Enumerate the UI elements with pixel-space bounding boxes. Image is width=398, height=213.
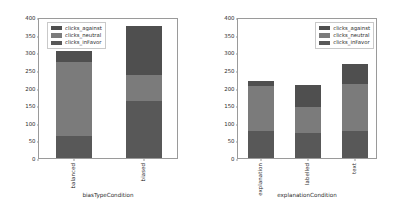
x-tick-mark bbox=[74, 158, 75, 161]
y-tick-mark bbox=[37, 54, 40, 55]
legend-entry: clicks_against bbox=[319, 26, 370, 31]
stacked-bar bbox=[56, 51, 92, 158]
stacked-bar bbox=[126, 26, 162, 158]
y-tick-mark bbox=[37, 107, 40, 108]
bar-segment-clicks_neutral bbox=[248, 86, 274, 131]
stacked-bar bbox=[248, 81, 274, 158]
legend-entry: clicks_neutral bbox=[51, 33, 102, 38]
legend-label: clicks_neutral bbox=[65, 33, 101, 38]
figure: 050100150200250300350400balancedbiased b… bbox=[0, 0, 398, 213]
bar-segment-clicks_against bbox=[56, 51, 92, 62]
bar-segment-clicks_inFavor bbox=[295, 133, 321, 158]
legend-entry: clicks_neutral bbox=[319, 33, 370, 38]
legend-label: clicks_neutral bbox=[333, 33, 369, 38]
x-tick-mark bbox=[308, 158, 309, 161]
x-tick-mark bbox=[261, 158, 262, 161]
legend-entry: clicks_against bbox=[51, 26, 102, 31]
bar-segment-clicks_inFavor bbox=[56, 136, 92, 158]
legend-label: clicks_against bbox=[333, 26, 370, 31]
legend-swatch-icon bbox=[51, 26, 62, 31]
bar-segment-clicks_neutral bbox=[342, 84, 368, 131]
bar-segment-clicks_inFavor bbox=[342, 131, 368, 158]
y-tick-mark bbox=[37, 71, 40, 72]
y-tick-mark bbox=[236, 160, 239, 161]
x-tick-label: explanation bbox=[259, 163, 264, 196]
x-tick-mark bbox=[144, 158, 145, 161]
bar-segment-clicks_neutral bbox=[126, 75, 162, 101]
y-tick-mark bbox=[236, 142, 239, 143]
y-tick-mark bbox=[236, 19, 239, 20]
x-tick-label: biased bbox=[141, 163, 146, 181]
y-tick-mark bbox=[37, 124, 40, 125]
x-axis-label-right: explanationCondition bbox=[237, 193, 377, 199]
legend-label: clicks_inFavor bbox=[65, 40, 101, 45]
chart-panel-explanationCondition: 050100150200250300350400explanationlabel… bbox=[199, 0, 398, 213]
x-tick-mark bbox=[354, 158, 355, 161]
y-tick-mark bbox=[236, 124, 239, 125]
bar-segment-clicks_against bbox=[342, 64, 368, 84]
legend-label: clicks_against bbox=[65, 26, 102, 31]
legend-swatch-icon bbox=[319, 26, 330, 31]
x-tick-label: balanced bbox=[71, 163, 76, 188]
stacked-bar bbox=[342, 64, 368, 158]
legend-swatch-icon bbox=[319, 41, 330, 46]
y-tick-mark bbox=[236, 107, 239, 108]
y-tick-mark bbox=[236, 36, 239, 37]
legend-entry: clicks_inFavor bbox=[51, 40, 102, 45]
y-tick-mark bbox=[236, 71, 239, 72]
legend-right: clicks_againstclicks_neutralclicks_inFav… bbox=[315, 22, 374, 49]
bar-segment-clicks_against bbox=[295, 85, 321, 107]
bar-segment-clicks_against bbox=[126, 26, 162, 75]
y-tick-mark bbox=[37, 89, 40, 90]
bar-segment-clicks_neutral bbox=[295, 107, 321, 133]
legend-entry: clicks_inFavor bbox=[319, 40, 370, 45]
bar-segment-clicks_inFavor bbox=[126, 101, 162, 158]
legend-swatch-icon bbox=[51, 41, 62, 46]
legend-swatch-icon bbox=[51, 33, 62, 38]
legend-label: clicks_inFavor bbox=[333, 40, 369, 45]
y-tick-mark bbox=[37, 142, 40, 143]
chart-panel-biasTypeCondition: 050100150200250300350400balancedbiased b… bbox=[0, 0, 199, 213]
y-tick-mark bbox=[37, 160, 40, 161]
y-tick-mark bbox=[236, 89, 239, 90]
y-tick-mark bbox=[236, 54, 239, 55]
stacked-bar bbox=[295, 85, 321, 158]
y-tick-mark bbox=[37, 36, 40, 37]
y-tick-mark bbox=[37, 19, 40, 20]
x-tick-label: text bbox=[352, 163, 357, 174]
x-tick-label: labelled bbox=[305, 163, 310, 185]
bar-segment-clicks_inFavor bbox=[248, 131, 274, 158]
legend-left: clicks_againstclicks_neutralclicks_inFav… bbox=[47, 22, 106, 49]
legend-swatch-icon bbox=[319, 33, 330, 38]
bar-segment-clicks_neutral bbox=[56, 62, 92, 136]
x-axis-label-left: biasTypeCondition bbox=[38, 193, 178, 199]
